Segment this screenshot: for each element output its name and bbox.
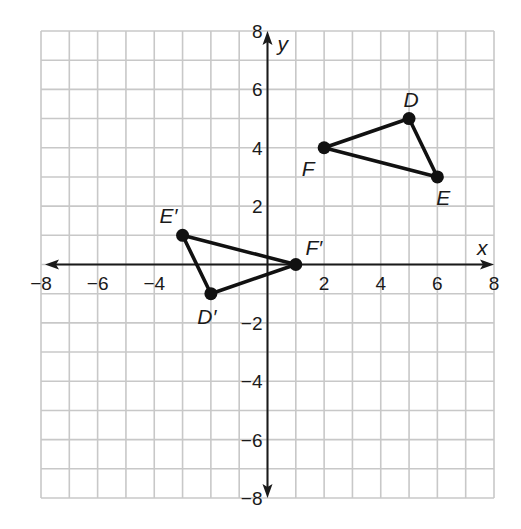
- y-tick-label: 4: [252, 138, 263, 159]
- coordinate-plane: x y −8−6−424688642−2−4−6−8 DEFD′E′F′: [0, 0, 521, 529]
- vertex-label: D: [403, 88, 418, 111]
- y-tick-label: −4: [241, 371, 263, 392]
- y-tick-label: −6: [241, 430, 263, 451]
- vertex-point: [204, 287, 217, 300]
- vertex-point: [318, 141, 331, 154]
- y-tick-label: 6: [252, 79, 263, 100]
- y-tick-label: −2: [241, 313, 263, 334]
- x-tick-label: −8: [30, 273, 52, 294]
- x-tick-label: 2: [319, 273, 330, 294]
- vertex-label: F′: [305, 236, 323, 259]
- vertex-point: [289, 258, 302, 271]
- x-tick-label: 4: [375, 273, 386, 294]
- x-tick-label: −6: [87, 273, 109, 294]
- triangle-def-prime: D′E′F′: [160, 204, 324, 327]
- vertex-point: [403, 112, 416, 125]
- vertex-point: [431, 170, 444, 183]
- x-axis-label: x: [476, 236, 489, 259]
- vertex-label: F: [302, 157, 316, 180]
- vertex-label: E′: [160, 204, 179, 227]
- triangles: DEFD′E′F′: [160, 88, 452, 328]
- axes: x y: [45, 31, 494, 498]
- y-axis-label: y: [276, 32, 290, 55]
- y-tick-label: −8: [241, 488, 263, 509]
- vertex-label: D′: [197, 305, 217, 328]
- vertex-label: E: [436, 186, 451, 209]
- x-tick-label: 6: [432, 273, 443, 294]
- x-tick-label: 8: [489, 273, 500, 294]
- y-tick-label: 2: [252, 196, 263, 217]
- y-tick-label: 8: [252, 21, 263, 42]
- x-tick-label: −4: [143, 273, 165, 294]
- vertex-point: [176, 229, 189, 242]
